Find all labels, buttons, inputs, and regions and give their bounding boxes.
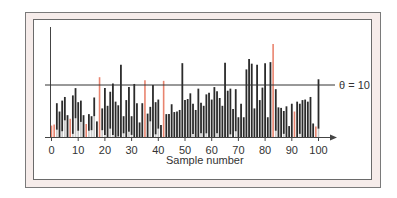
x-axis-title: Sample number bbox=[166, 154, 244, 166]
x-tick-label: 40 bbox=[152, 144, 164, 156]
x-tick-label: 0 bbox=[48, 144, 54, 156]
x-tick-label: 100 bbox=[309, 144, 327, 156]
bar-chart: θ = 10 0102030405060708090100 Sample num… bbox=[0, 0, 397, 198]
x-tick-label: 30 bbox=[125, 144, 137, 156]
x-tick-label: 20 bbox=[99, 144, 111, 156]
x-axis-arrow-icon bbox=[330, 135, 337, 141]
bars-group bbox=[52, 44, 319, 137]
threshold-label: θ = 10 bbox=[339, 79, 370, 91]
x-tick-label: 80 bbox=[259, 144, 271, 156]
x-tick-label: 10 bbox=[72, 144, 84, 156]
x-tick-label: 90 bbox=[286, 144, 298, 156]
